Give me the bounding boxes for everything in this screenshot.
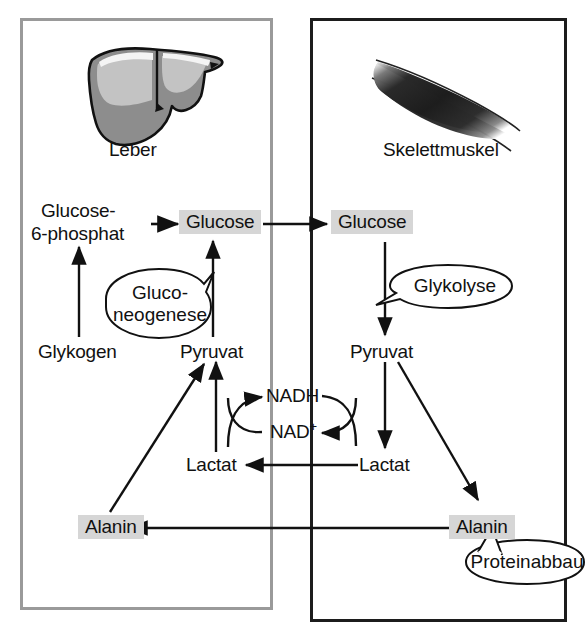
node-lactat-liver: Lactat (186, 454, 237, 475)
node-nad-plus: NAD+ (270, 421, 317, 442)
bubble-gluconeogenese-line1: Gluco- (120, 282, 200, 304)
node-glucose-liver-text: Glucose (179, 210, 261, 234)
node-nad-plus-superscript: + (310, 419, 317, 434)
node-lactat-muscle: Lactat (359, 454, 410, 475)
node-glucose-muscle: Glucose (331, 211, 413, 232)
node-alanin-liver: Alanin (78, 516, 144, 537)
node-alanin-muscle: Alanin (449, 516, 515, 537)
bubble-glykolyse: Glykolyse (404, 275, 506, 297)
node-nad-plus-text: NAD (270, 421, 310, 442)
liver-caption: Leber (109, 139, 157, 160)
node-glucose-liver: Glucose (179, 211, 261, 232)
node-alanin-muscle-text: Alanin (449, 515, 515, 539)
node-glucose-muscle-text: Glucose (331, 210, 413, 234)
node-glykogen: Glykogen (38, 341, 117, 362)
node-glucose-6-phosphat-line2: 6-phosphat (31, 223, 124, 244)
node-glucose-6-phosphat-line1: Glucose- (41, 200, 115, 221)
node-alanin-liver-text: Alanin (78, 515, 144, 539)
node-pyruvat-muscle: Pyruvat (350, 341, 413, 362)
muscle-caption: Skelettmuskel (383, 139, 499, 160)
bubble-gluconeogenese-line2: neogenese (106, 304, 214, 326)
node-pyruvat-liver: Pyruvat (180, 341, 243, 362)
node-nadh: NADH (266, 385, 319, 406)
bubble-proteinabbau: Proteinabbau (469, 551, 585, 573)
